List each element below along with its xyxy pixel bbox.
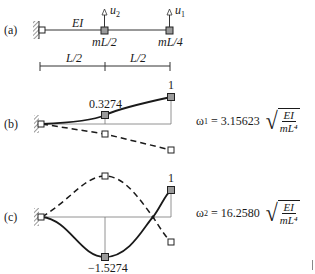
panel-a-label: (a): [4, 23, 17, 37]
omega1-equation: ω1 = 3.15623 √ EI mL⁴: [196, 108, 300, 134]
fraction-denominator: mL⁴: [280, 214, 298, 226]
panel-a: (a) EI u2 u1 mL/2 mL/4 L/2 L/2: [4, 3, 185, 71]
omega2-value: = 16.2580: [208, 206, 260, 221]
fixed-support-icon: [33, 21, 39, 39]
dof2-label: u2: [110, 3, 120, 19]
mode1-mid-node: [102, 112, 109, 119]
sqrt-icon: √: [266, 201, 278, 225]
fraction: EI mL⁴: [278, 200, 300, 226]
mass-node-end: [166, 27, 173, 34]
panel-c: (c) −1.5274 1: [4, 171, 175, 274]
panel-b-label: (b): [4, 117, 18, 131]
mass1-label: mL/2: [92, 35, 117, 49]
omega2-equation: ω2 = 16.2580 √ EI mL⁴: [196, 200, 300, 226]
panel-c-label: (c): [4, 210, 17, 224]
span2-label: L/2: [129, 51, 146, 65]
mass2-label: mL/4: [158, 35, 183, 49]
beam-stiffness-label: EI: [71, 16, 84, 30]
panel-b: (b) 0.3274 1: [4, 78, 175, 153]
mode2-end-node: [168, 187, 175, 194]
mass-node-mid: [101, 27, 108, 34]
span1-label: L/2: [65, 51, 82, 65]
mode1-mid-value: 0.3274: [89, 97, 122, 111]
fraction-denominator: mL⁴: [280, 122, 298, 134]
sqrt-icon: √: [266, 109, 278, 133]
mode2-shape-curve: [42, 190, 171, 257]
mode1-end-value: 1: [168, 78, 174, 92]
sqrt-expression: √ EI mL⁴: [266, 108, 300, 134]
omega-symbol: ω: [196, 206, 204, 221]
page-edge-mark: [312, 260, 313, 270]
modal-diagram: (a) EI u2 u1 mL/2 mL/4 L/2 L/2 (b): [0, 0, 315, 274]
fraction-numerator: EI: [282, 109, 296, 122]
mode1-end-node: [168, 94, 175, 101]
mode2-end-value: 1: [168, 171, 174, 185]
mode2-mid-node: [102, 254, 109, 261]
dof1-label: u1: [175, 3, 185, 19]
mode2-mirror-dashed: [42, 176, 171, 242]
mode2-mid-value: −1.5274: [88, 261, 128, 274]
omega-symbol: ω: [196, 114, 204, 129]
fraction: EI mL⁴: [278, 108, 300, 134]
sqrt-expression: √ EI mL⁴: [266, 200, 300, 226]
omega1-value: = 3.15623: [208, 114, 260, 129]
fraction-numerator: EI: [282, 201, 296, 214]
hinge-node: [39, 27, 45, 33]
